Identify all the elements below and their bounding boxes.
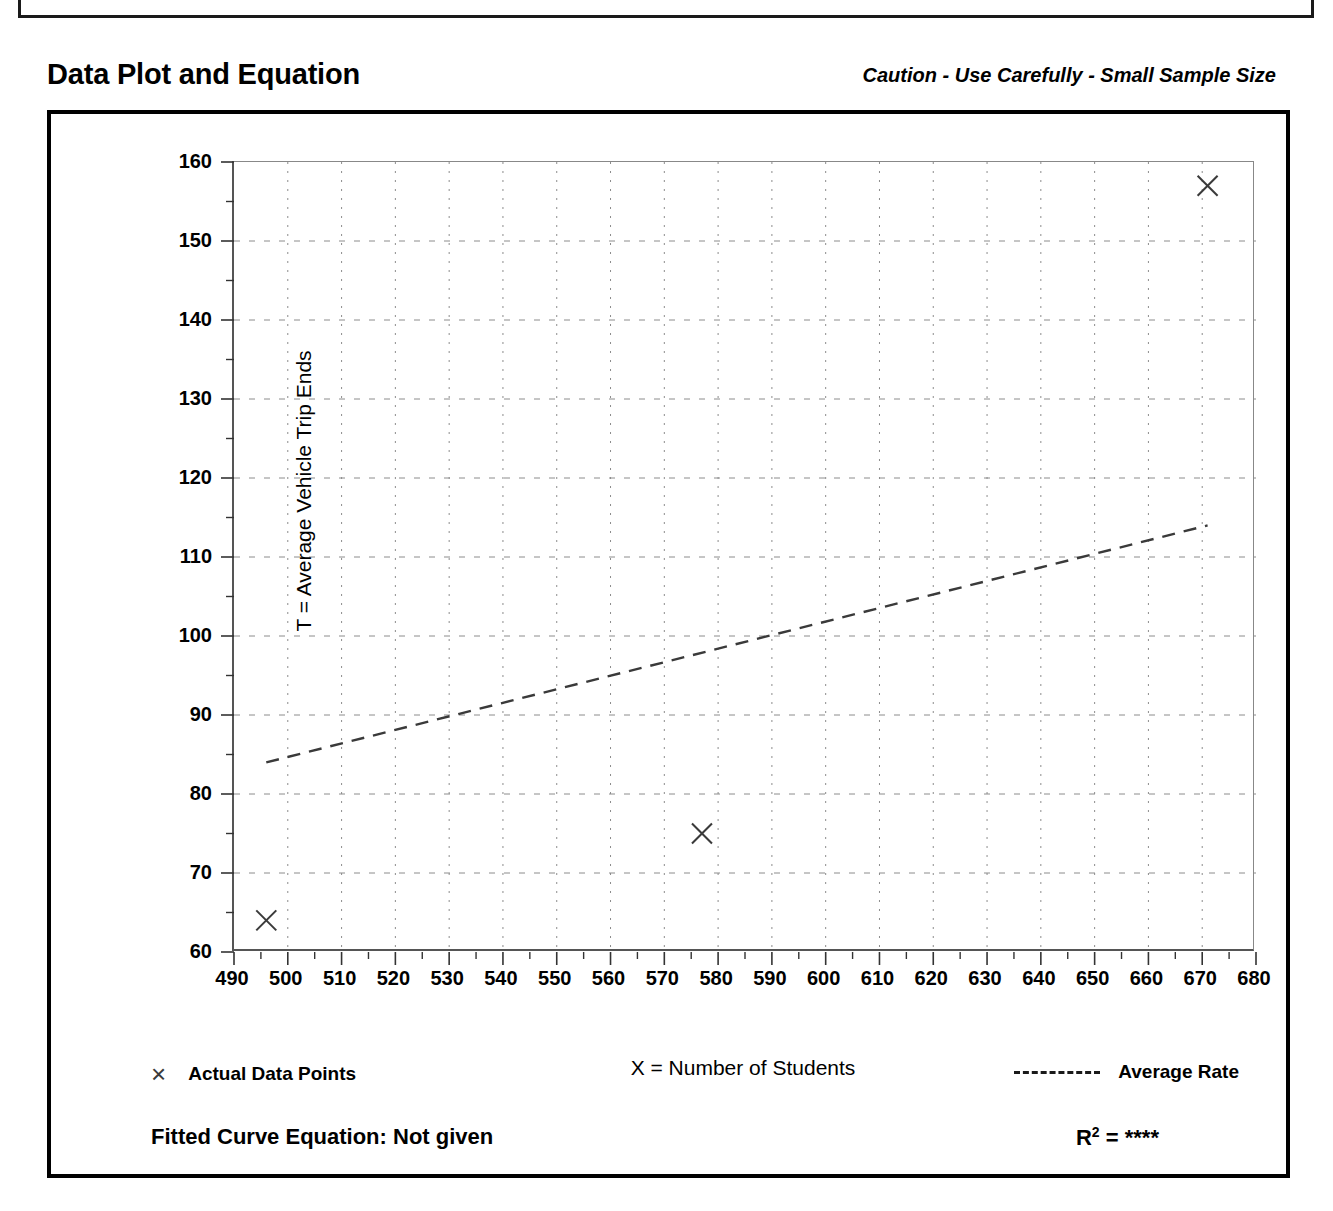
x-tick-label: 640: [1009, 967, 1069, 990]
y-axis-title: T = Average Vehicle Trip Ends: [292, 281, 316, 701]
x-tick-label: 530: [417, 967, 477, 990]
plot-wrapper: 60708090100110120130140150160 4905005105…: [232, 161, 1254, 951]
legend-row: × Actual Data Points Average Rate: [51, 1061, 1294, 1107]
data-point-markers: [256, 176, 1217, 931]
y-tick-label: 110: [152, 545, 212, 568]
dashed-line-icon: [1014, 1071, 1100, 1074]
axis-ticks: [221, 162, 1256, 965]
y-tick-label: 90: [152, 703, 212, 726]
x-tick-label: 620: [901, 967, 961, 990]
y-tick-label: 140: [152, 308, 212, 331]
equation-row: Fitted Curve Equation: Not given R2 = **…: [51, 1124, 1294, 1174]
x-tick-label: 510: [310, 967, 370, 990]
x-tick-label: 490: [202, 967, 262, 990]
y-tick-label: 100: [152, 624, 212, 647]
caution-note: Caution - Use Carefully - Small Sample S…: [863, 64, 1276, 87]
r-squared-number: = ****: [1106, 1125, 1159, 1150]
x-tick-label: 590: [740, 967, 800, 990]
x-tick-label: 500: [256, 967, 316, 990]
page-title: Data Plot and Equation: [47, 58, 360, 91]
page-header: Data Plot and Equation Caution - Use Car…: [0, 58, 1333, 100]
x-tick-label: 670: [1170, 967, 1230, 990]
y-tick-label: 160: [152, 150, 212, 173]
chart-canvas: [234, 162, 1256, 952]
x-tick-label: 520: [363, 967, 423, 990]
y-tick-label: 150: [152, 229, 212, 252]
legend-label-data-points: Actual Data Points: [188, 1063, 356, 1085]
x-tick-label: 660: [1116, 967, 1176, 990]
r-squared-prefix: R: [1076, 1125, 1092, 1150]
legend-item-average-rate: Average Rate: [1014, 1061, 1239, 1083]
x-tick-label: 630: [955, 967, 1015, 990]
x-tick-label: 560: [579, 967, 639, 990]
x-tick-label: 610: [847, 967, 907, 990]
average-rate-line: [266, 525, 1207, 762]
x-tick-label: 650: [1063, 967, 1123, 990]
y-tick-label: 60: [152, 940, 212, 963]
plot-area: [232, 161, 1254, 951]
y-tick-label: 80: [152, 782, 212, 805]
y-tick-label: 70: [152, 861, 212, 884]
legend-item-data-points: × Actual Data Points: [151, 1061, 356, 1087]
x-tick-label: 600: [794, 967, 854, 990]
x-tick-label: 550: [525, 967, 585, 990]
y-tick-label: 120: [152, 466, 212, 489]
x-marker-icon: ×: [151, 1061, 166, 1087]
x-tick-label: 580: [686, 967, 746, 990]
top-frame-band: [18, 0, 1314, 18]
r-squared-exponent: 2: [1092, 1124, 1100, 1140]
fitted-curve-equation: Fitted Curve Equation: Not given: [151, 1124, 493, 1150]
r-squared-value: R2 = ****: [1076, 1124, 1159, 1151]
x-tick-label: 570: [632, 967, 692, 990]
chart-frame: 60708090100110120130140150160 4905005105…: [47, 110, 1290, 1178]
legend-label-average-rate: Average Rate: [1118, 1061, 1239, 1083]
x-tick-label: 540: [471, 967, 531, 990]
grid-lines: [234, 162, 1256, 952]
x-tick-label: 680: [1224, 967, 1284, 990]
y-tick-label: 130: [152, 387, 212, 410]
